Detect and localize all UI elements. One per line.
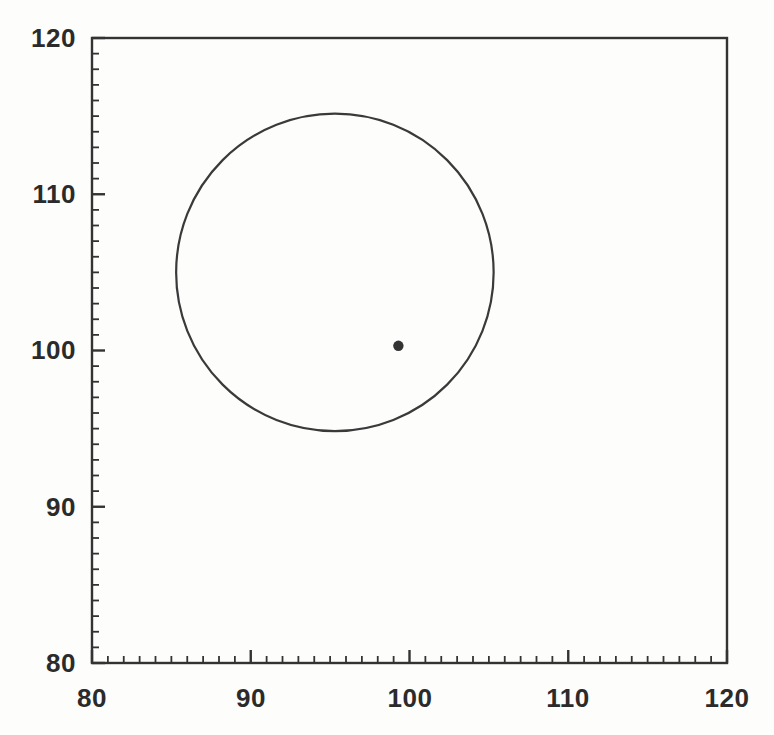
y-tick-label-1: 90 [18,492,76,523]
x-tick-label-4: 120 [705,683,750,714]
y-tick-label-0: 80 [18,648,76,679]
x-tick-label-3: 110 [546,683,589,714]
scatter-points [393,341,403,351]
x-tick-label-1: 90 [236,683,266,714]
scatter-point [393,341,403,351]
y-tick-label-3: 110 [18,179,76,210]
x-tick-label-2: 100 [388,683,433,714]
x-tick-label-0: 80 [77,683,107,714]
y-tick-label-4: 120 [18,23,76,54]
plot-area [0,0,774,735]
figure-canvas: 80 90 100 110 120 80 90 100 110 120 [0,0,774,735]
y-tick-label-2: 100 [18,335,76,366]
circle-outline-series [176,114,494,432]
